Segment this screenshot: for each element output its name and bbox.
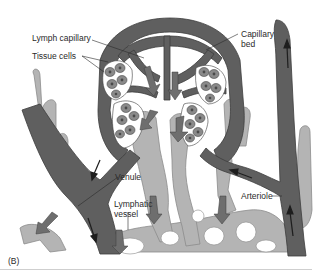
label-capillary-bed-line1: Capillary [241, 29, 274, 39]
label-arteriole: Arteriole [241, 191, 273, 201]
bottom-divider [0, 269, 312, 270]
label-lymphatic-vessel-line1: Lymphatic [114, 199, 152, 209]
label-tissue-cells: Tissue cells [32, 51, 76, 61]
label-lymphatic-vessel-line2: vessel [114, 209, 138, 219]
label-lymph-capillary: Lymph capillary [32, 33, 91, 43]
label-venule: Venule [115, 172, 141, 182]
label-capillary-bed-line2: bed [241, 39, 255, 49]
panel-letter: (B) [8, 256, 19, 266]
